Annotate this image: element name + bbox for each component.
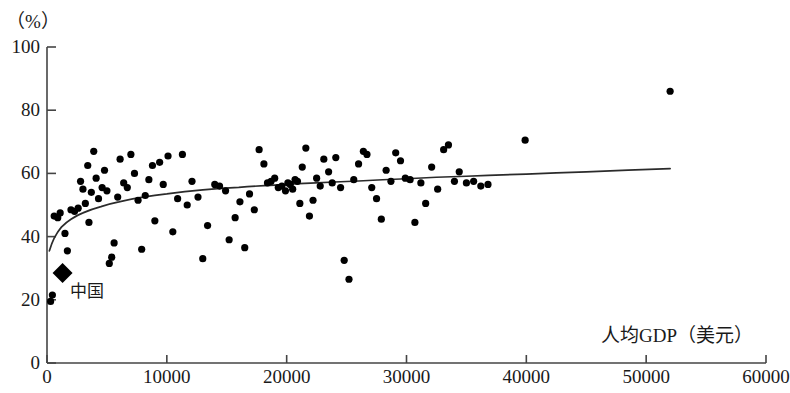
scatter-point xyxy=(82,200,89,207)
scatter-point xyxy=(484,181,491,188)
scatter-point xyxy=(387,178,394,185)
scatter-point xyxy=(188,178,195,185)
axes xyxy=(47,47,766,363)
scatter-point xyxy=(373,195,380,202)
scatter-point xyxy=(337,184,344,191)
scatter-point xyxy=(138,246,145,253)
scatter-point xyxy=(306,212,313,219)
scatter-point xyxy=(174,195,181,202)
scatter-point xyxy=(309,197,316,204)
scatter-point xyxy=(294,178,301,185)
scatter-point xyxy=(199,255,206,262)
scatter-point xyxy=(434,186,441,193)
scatter-point xyxy=(317,182,324,189)
scatter-point xyxy=(57,209,64,216)
scatter-point xyxy=(47,298,54,305)
scatter-point xyxy=(49,291,56,298)
trend-curve xyxy=(49,169,670,251)
scatter-point xyxy=(241,244,248,251)
scatter-point xyxy=(226,236,233,243)
scatter-point xyxy=(79,186,86,193)
scatter-point xyxy=(142,192,149,199)
scatter-point xyxy=(222,187,229,194)
scatter-point xyxy=(251,206,258,213)
scatter-point xyxy=(101,167,108,174)
scatter-point xyxy=(383,167,390,174)
china-diamond-marker xyxy=(53,263,73,283)
scatter-point xyxy=(355,160,362,167)
scatter-points xyxy=(47,88,674,305)
scatter-point xyxy=(93,175,100,182)
x-axis-ticks xyxy=(47,355,766,363)
scatter-point xyxy=(179,151,186,158)
scatter-point xyxy=(194,194,201,201)
scatter-point xyxy=(114,194,121,201)
scatter-point xyxy=(124,184,131,191)
scatter-point xyxy=(145,176,152,183)
scatter-point xyxy=(417,179,424,186)
scatter-point xyxy=(160,181,167,188)
scatter-point xyxy=(329,179,336,186)
x-axis-tick-label: 20000 xyxy=(263,366,311,388)
scatter-point xyxy=(103,187,110,194)
scatter-point xyxy=(470,178,477,185)
scatter-point xyxy=(302,145,309,152)
scatter-point xyxy=(363,151,370,158)
scatter-point xyxy=(313,175,320,182)
trend-curve-path xyxy=(49,169,670,251)
x-axis-tick-label: 30000 xyxy=(383,366,431,388)
scatter-point xyxy=(169,228,176,235)
scatter-point xyxy=(77,178,84,185)
scatter-point xyxy=(88,189,95,196)
scatter-point xyxy=(236,198,243,205)
scatter-point xyxy=(204,222,211,229)
x-axis-tick-label: 40000 xyxy=(503,366,551,388)
scatter-point xyxy=(95,195,102,202)
scatter-point xyxy=(289,186,296,193)
scatter-point xyxy=(134,197,141,204)
scatter-point xyxy=(127,151,134,158)
y-axis-tick-label: 40 xyxy=(0,226,40,248)
scatter-point xyxy=(368,184,375,191)
scatter-point xyxy=(667,88,674,95)
x-axis-tick-label: 10000 xyxy=(143,366,191,388)
scatter-point xyxy=(411,219,418,226)
scatter-point xyxy=(392,149,399,156)
scatter-point xyxy=(299,163,306,170)
scatter-point xyxy=(325,168,332,175)
scatter-point xyxy=(111,239,118,246)
scatter-point xyxy=(345,276,352,283)
scatter-point xyxy=(131,170,138,177)
scatter-point xyxy=(85,219,92,226)
scatter-point xyxy=(75,205,82,212)
scatter-point xyxy=(477,182,484,189)
scatter-point xyxy=(246,190,253,197)
scatter-point xyxy=(108,254,115,261)
scatter-point xyxy=(151,217,158,224)
scatter-point xyxy=(341,257,348,264)
x-axis-tick-label: 60000 xyxy=(742,366,790,388)
y-axis-ticks xyxy=(47,47,56,363)
y-axis-tick-label: 80 xyxy=(0,99,40,121)
scatter-point xyxy=(397,157,404,164)
scatter-point xyxy=(106,260,113,267)
scatter-point xyxy=(184,201,191,208)
scatter-point xyxy=(320,156,327,163)
scatter-point xyxy=(428,163,435,170)
scatter-point xyxy=(332,154,339,161)
y-axis-tick-label: 20 xyxy=(0,289,40,311)
scatter-point xyxy=(407,176,414,183)
scatter-point xyxy=(378,216,385,223)
scatter-point xyxy=(463,179,470,186)
scatter-point xyxy=(256,146,263,153)
scatter-point xyxy=(84,162,91,169)
scatter-point xyxy=(296,200,303,207)
x-axis-tick-label: 50000 xyxy=(622,366,670,388)
scatter-point xyxy=(456,168,463,175)
china-marker xyxy=(53,263,73,283)
scatter-point xyxy=(149,162,156,169)
scatter-point xyxy=(156,159,163,166)
scatter-point xyxy=(451,178,458,185)
